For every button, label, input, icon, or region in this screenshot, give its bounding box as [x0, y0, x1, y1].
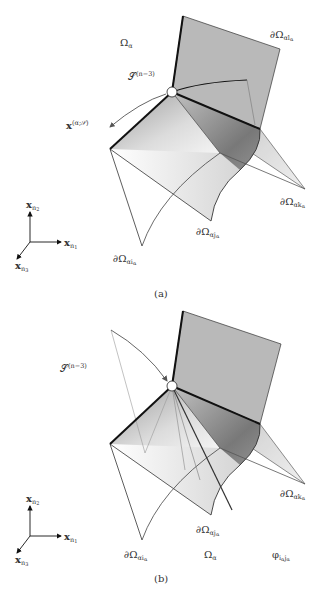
panel-b: 𝒮(n−3) ∂Ωαkα ∂Ωαjα ∂Ωαiα Ωα φiαjα xn2 xn… — [15, 311, 306, 584]
label-boundary-i: ∂Ωαiα — [124, 549, 148, 562]
axis-label-x1: xn1 — [64, 531, 77, 544]
panel-a: Ωα 𝒮(n−3) x(α;𝒮) ∂Ωαlα ∂Ωαkα ∂Ωαjα ∂Ωαiα… — [15, 16, 306, 299]
label-boundary-l: ∂Ωαlα — [270, 29, 294, 42]
caption-a: (a) — [154, 288, 168, 299]
axes-triad-a: xn2 xn1 xn3 — [15, 199, 77, 273]
label-boundary-i: ∂Ωαiα — [113, 253, 137, 266]
subspace-arrow — [111, 330, 167, 381]
label-boundary-k: ∂Ωαkα — [280, 488, 306, 501]
figure-canvas: Ωα 𝒮(n−3) x(α;𝒮) ∂Ωαlα ∂Ωαkα ∂Ωαjα ∂Ωαiα… — [0, 0, 322, 599]
axes-triad-b: xn2 xn1 xn3 — [15, 493, 77, 567]
label-subspace: 𝒮(n−3) — [60, 362, 87, 374]
vertex-point — [167, 381, 177, 391]
axis-label-x3: xn3 — [15, 260, 28, 273]
label-angle: φiαjα — [272, 549, 291, 562]
axis-label-x2: xn2 — [26, 199, 39, 212]
label-point: x(α;𝒮) — [66, 119, 89, 131]
axis-label-x3: xn3 — [15, 554, 28, 567]
label-boundary-j: ∂Ωαjα — [196, 226, 220, 239]
axis-label-x2: xn2 — [26, 493, 39, 506]
label-boundary-j: ∂Ωαjα — [196, 524, 220, 537]
label-domain: Ωα — [120, 37, 133, 50]
caption-b: (b) — [154, 573, 168, 584]
label-domain: Ωα — [204, 549, 217, 562]
axis-label-x1: xn1 — [64, 237, 77, 250]
label-subspace: 𝒮(n−3) — [128, 70, 155, 82]
label-boundary-k: ∂Ωαkα — [280, 196, 306, 209]
vertex-point — [167, 87, 177, 97]
